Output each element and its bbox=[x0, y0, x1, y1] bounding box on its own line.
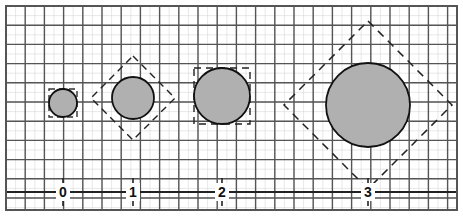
circle-0[interactable] bbox=[49, 89, 77, 117]
geometric-diagram-svg: 0123 bbox=[0, 0, 463, 222]
axis-tick-label-1: 1 bbox=[129, 184, 137, 200]
axis-tick-label-0: 0 bbox=[59, 184, 67, 200]
circle-1[interactable] bbox=[112, 77, 154, 119]
circle-2[interactable] bbox=[194, 68, 250, 124]
axis-tick-label-3: 3 bbox=[364, 184, 372, 200]
axis-tick-label-2: 2 bbox=[218, 184, 226, 200]
circle-3[interactable] bbox=[326, 63, 410, 147]
diagram-canvas: 0123 bbox=[0, 0, 463, 222]
